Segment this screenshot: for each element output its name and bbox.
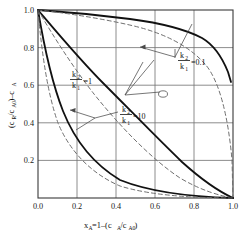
x-tick-6: 1.0 bbox=[228, 202, 238, 211]
y-tick-labels: 1.0 0.8 0.6 0.4 0.2 bbox=[24, 6, 34, 165]
x-tick-labels: 0.0 0.2 0.4 0.6 0.8 1.0 bbox=[33, 202, 238, 211]
y-tick-5: 0.2 bbox=[24, 156, 34, 165]
y-axis-label-mid: /c bbox=[7, 109, 16, 115]
ann-01-numerator: k bbox=[180, 51, 184, 60]
x-axis-label-mid: /c bbox=[121, 221, 127, 230]
x-tick-3: 0.4 bbox=[111, 202, 121, 211]
y-tick-4: 0.4 bbox=[24, 119, 34, 128]
ann-1-value: =1 bbox=[84, 77, 93, 86]
ann-10-numerator: k bbox=[122, 105, 126, 114]
y-axis-label-open: (c bbox=[7, 121, 16, 128]
y-tick-1: 1.0 bbox=[24, 6, 34, 15]
ann-01-denominator: k bbox=[180, 62, 184, 71]
x-tick-1: 0.0 bbox=[33, 202, 43, 211]
ann-01-value: =0.1 bbox=[191, 58, 206, 67]
x-axis-label: x A =1–(c A /c A0 ) bbox=[84, 221, 138, 231]
ann-01-denominator-sub: 1 bbox=[185, 66, 188, 72]
ann-10-denominator-sub: 1 bbox=[127, 120, 130, 126]
y-tick-3: 0.6 bbox=[24, 81, 34, 90]
ann-1-denominator: k bbox=[72, 81, 76, 90]
chart-svg: k 2 k 1 =0.1 k 2 k 1 =1 k 2 k 1 =10 1.0 … bbox=[0, 0, 249, 235]
ann-1-numerator: k bbox=[72, 70, 76, 79]
y-axis-label-sub3: A bbox=[11, 82, 17, 86]
ann-10-value: =10 bbox=[133, 112, 146, 121]
chart-figure: k 2 k 1 =0.1 k 2 k 1 =1 k 2 k 1 =10 1.0 … bbox=[0, 0, 249, 235]
y-axis-label: (c R /c A0 )–c A bbox=[7, 82, 17, 128]
y-axis-label-close: )–c bbox=[7, 91, 16, 102]
ann-1-denominator-sub: 1 bbox=[77, 85, 80, 91]
x-tick-5: 0.8 bbox=[189, 202, 199, 211]
x-axis-label-rest: =1–(c bbox=[92, 221, 112, 230]
x-tick-2: 0.2 bbox=[72, 202, 82, 211]
x-axis-label-end: ) bbox=[135, 221, 138, 230]
x-tick-4: 0.6 bbox=[150, 202, 160, 211]
ann-10-denominator: k bbox=[122, 116, 126, 125]
y-tick-2: 0.8 bbox=[24, 44, 34, 53]
